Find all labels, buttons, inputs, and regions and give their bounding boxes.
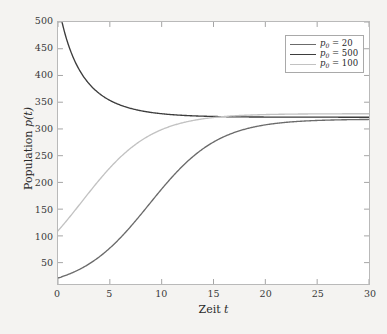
y-tick-label-4: 250	[35, 151, 53, 161]
y-tick-label-0: 50	[41, 258, 53, 268]
y-tick-label-9: 500	[35, 16, 53, 26]
legend[interactable]: p0 = 20p0 = 500p0 = 100	[285, 35, 364, 73]
y-tick-label-6: 350	[35, 97, 53, 107]
y-tick-label-7: 400	[35, 70, 53, 80]
y-tick-label-5: 300	[35, 124, 53, 134]
curve-series-0	[58, 119, 369, 278]
legend-swatch-0	[290, 44, 316, 45]
x-tick-label-2: 10	[155, 288, 167, 299]
legend-swatch-2	[290, 64, 316, 65]
legend-item-2[interactable]: p0 = 100	[290, 59, 358, 69]
x-tick-label-3: 15	[207, 288, 219, 299]
y-tick-label-3: 200	[35, 178, 53, 188]
x-axis-title-text: Zeit	[198, 303, 220, 316]
y-axis-title: Population p(t)	[22, 59, 35, 239]
legend-label-2: p0 = 100	[320, 58, 358, 71]
legend-swatch-1	[290, 54, 316, 55]
chart-figure: 50100150200250300350400450500 0510152025…	[0, 0, 387, 334]
x-axis-title: Zeit t	[57, 303, 370, 316]
y-axis-title-var: p	[22, 120, 35, 127]
curve-series-2	[58, 114, 369, 231]
x-axis-title-var: t	[224, 303, 228, 316]
x-tick-labels: 051015202530	[57, 288, 370, 302]
x-tick-label-1: 5	[106, 288, 112, 299]
y-tick-label-2: 150	[35, 205, 53, 215]
x-tick-label-0: 0	[54, 288, 60, 299]
y-axis-title-text: Population	[22, 131, 35, 190]
y-tick-label-8: 450	[35, 43, 53, 53]
y-axis-title-arg: (t)	[22, 107, 35, 120]
y-tick-label-1: 100	[35, 232, 53, 242]
x-tick-label-6: 30	[364, 288, 376, 299]
x-tick-label-5: 25	[312, 288, 324, 299]
x-tick-label-4: 20	[260, 288, 272, 299]
